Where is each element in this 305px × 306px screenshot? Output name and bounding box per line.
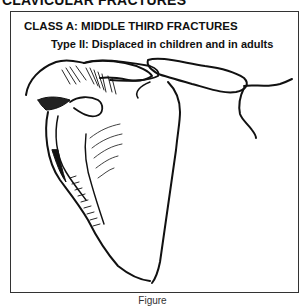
glenoid-shading bbox=[38, 97, 70, 110]
acromion-outline bbox=[26, 60, 152, 95]
rib-arc bbox=[137, 82, 150, 98]
coracoid bbox=[70, 97, 102, 116]
proximal-clavicle bbox=[148, 59, 247, 93]
sternal-line bbox=[239, 88, 256, 138]
figure-caption: Figure bbox=[0, 295, 305, 306]
scapula-medial-border bbox=[152, 82, 180, 283]
spine-ridge bbox=[85, 134, 104, 224]
scapula-lateral-border bbox=[46, 112, 150, 281]
fossa-lines bbox=[90, 124, 122, 178]
scapula-inner-line bbox=[56, 116, 86, 200]
rib-line bbox=[244, 79, 292, 86]
ligament-fibers bbox=[62, 66, 116, 94]
